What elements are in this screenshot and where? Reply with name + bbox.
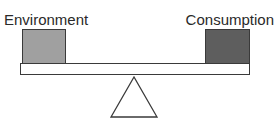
fulcrum-triangle-icon — [0, 0, 280, 128]
